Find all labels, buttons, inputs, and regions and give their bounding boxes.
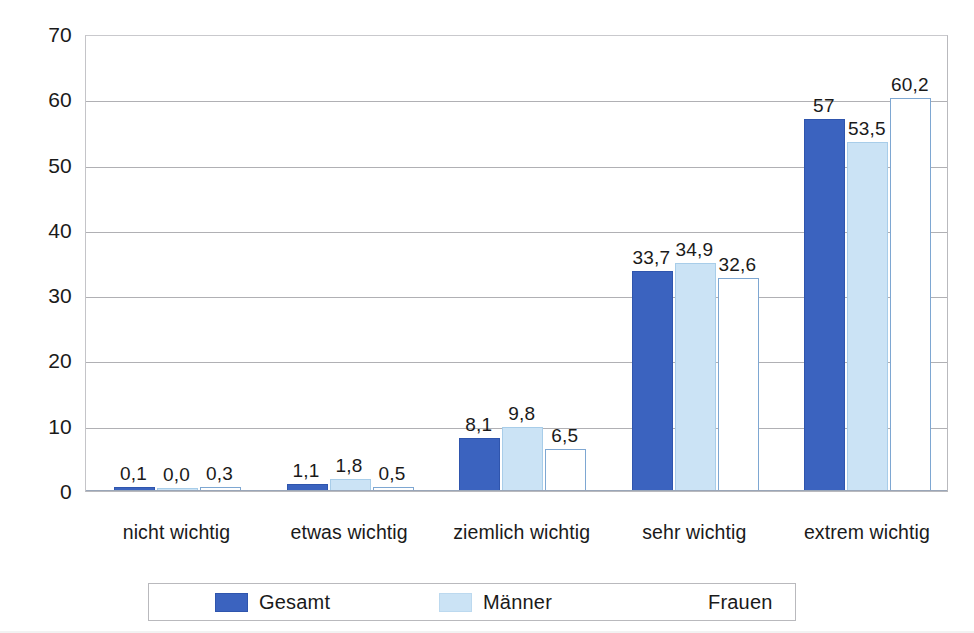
bar-value-label: 6,5	[534, 426, 595, 445]
y-tick-label: 30	[2, 285, 72, 306]
legend-swatch-maenner	[439, 593, 472, 612]
y-tick-label: 0	[2, 481, 72, 502]
value-labels: 0,10,00,31,11,80,58,19,86,533,734,932,65…	[85, 35, 948, 492]
x-category-label: ziemlich wichtig	[428, 520, 615, 544]
bar-value-label: 57	[793, 96, 854, 115]
x-category-label: extrem wichtig	[773, 520, 960, 544]
x-axis-labels: nicht wichtigetwas wichtigziemlich wicht…	[85, 520, 948, 552]
legend-label: Männer	[483, 591, 552, 613]
y-tick-label: 40	[2, 220, 72, 241]
legend-entry-frauen: Frauen	[664, 584, 773, 620]
bar-value-label: 32,6	[707, 255, 768, 274]
y-axis: 706050403020100	[0, 0, 72, 510]
bar-value-label: 0,5	[362, 464, 423, 483]
y-tick-label: 10	[2, 416, 72, 437]
legend-entry-maenner: Männer	[439, 584, 552, 620]
legend-label: Gesamt	[259, 591, 330, 613]
y-tick-label: 20	[2, 350, 72, 371]
bar-value-label: 53,5	[836, 119, 897, 138]
bar-value-label: 60,2	[879, 75, 940, 94]
y-tick-label: 60	[2, 89, 72, 110]
legend-label: Frauen	[708, 591, 773, 613]
bar-value-label: 0,3	[189, 464, 250, 483]
x-category-label: sehr wichtig	[601, 520, 788, 544]
legend-swatch-gesamt	[215, 593, 248, 612]
bar-chart: 706050403020100 0,10,00,31,11,80,58,19,8…	[0, 0, 974, 633]
x-category-label: nicht wichtig	[83, 520, 270, 544]
legend-entry-gesamt: Gesamt	[215, 584, 330, 620]
y-tick-label: 50	[2, 155, 72, 176]
x-category-label: etwas wichtig	[256, 520, 443, 544]
bar-value-label: 9,8	[491, 404, 552, 423]
legend-swatch-frauen	[664, 593, 697, 612]
y-tick-label: 70	[2, 24, 72, 45]
legend: GesamtMännerFrauen	[148, 583, 796, 621]
